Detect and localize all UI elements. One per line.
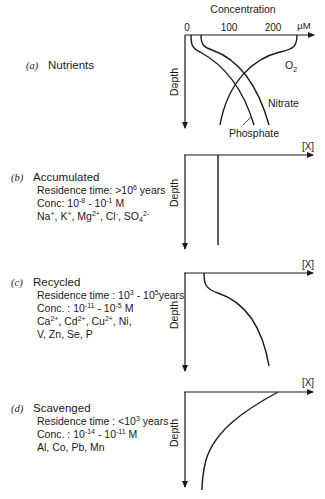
panel-b-plot: [X] Depth — [168, 141, 314, 249]
nitrate-label: Nitrate — [268, 97, 299, 109]
phosphate-leader-line — [243, 117, 251, 125]
depth-label: Dəpth — [168, 68, 180, 96]
profiles-figure: Concentration 0 100 200 µM Dəpth O2 Nitr… — [0, 0, 325, 499]
scavenged-profile — [202, 392, 278, 490]
panel-a-plot: Concentration 0 100 200 µM Dəpth O2 Nitr… — [168, 3, 314, 139]
concentration-axis-title: Concentration — [210, 3, 276, 15]
tick-200: 200 — [265, 22, 282, 33]
phosphate-label: Phosphate — [229, 127, 279, 139]
depth-label: Depth — [168, 301, 180, 329]
tick-100: 100 — [221, 22, 238, 33]
recycled-profile — [204, 273, 269, 366]
unit-label: µM — [297, 20, 310, 31]
panel-d-plot: [X] Depth — [168, 377, 314, 490]
tick-0: 0 — [184, 22, 190, 33]
panel-c-plot: [X] Depth — [168, 259, 314, 371]
x-axis-label: [X] — [302, 377, 314, 388]
depth-label: Depth — [168, 419, 180, 447]
nitrate-curve — [201, 35, 269, 125]
o2-label: O2 — [285, 59, 297, 73]
x-axis-label: [X] — [302, 141, 314, 152]
depth-label: Depth — [168, 179, 180, 207]
x-axis-label: [X] — [302, 259, 314, 270]
